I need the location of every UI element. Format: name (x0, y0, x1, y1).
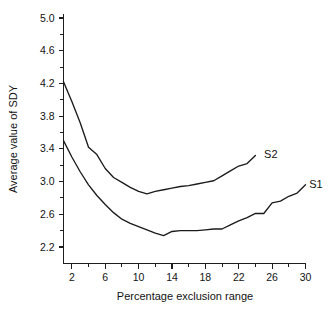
y-tick-label: 3.0 (40, 175, 55, 187)
y-tick-label: 4.2 (40, 77, 55, 89)
x-tick-label: 2 (69, 271, 75, 283)
series-inline-labels: S2S1 (264, 148, 323, 189)
x-tick-label: 6 (102, 271, 108, 283)
y-tick-label: 3.8 (40, 110, 55, 122)
y-axis-title: Average value of SDY (7, 84, 19, 193)
x-tick-label: 30 (300, 271, 312, 283)
x-tick-label: 22 (233, 271, 245, 283)
y-tick-label: 3.4 (40, 142, 55, 154)
series-line-s2 (64, 82, 256, 194)
x-tick-label: 26 (266, 271, 278, 283)
y-tick-label: 2.6 (40, 208, 55, 220)
y-tick-label: 2.2 (40, 241, 55, 253)
series-label-s2: S2 (264, 148, 277, 160)
x-axis-ticks (72, 264, 306, 269)
x-tick-label: 18 (200, 271, 212, 283)
line-chart: 2.22.63.03.43.84.24.65.0 26101418222630 … (0, 0, 329, 314)
x-axis-title: Percentage exclusion range (117, 290, 253, 302)
y-axis-tick-labels: 2.22.63.03.43.84.24.65.0 (40, 12, 55, 253)
y-tick-label: 5.0 (40, 12, 55, 24)
x-tick-label: 10 (133, 271, 145, 283)
x-tick-label: 14 (166, 271, 178, 283)
y-tick-label: 4.6 (40, 44, 55, 56)
series-label-s1: S1 (309, 178, 322, 190)
axes-group (64, 14, 306, 264)
x-axis-tick-labels: 26101418222630 (69, 271, 312, 283)
chart-figure: 2.22.63.03.43.84.24.65.0 26101418222630 … (0, 0, 329, 314)
y-axis-ticks (59, 18, 64, 247)
